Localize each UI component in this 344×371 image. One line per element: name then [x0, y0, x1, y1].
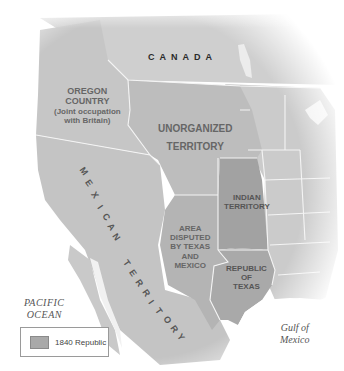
pacific-ocean-label: PACIFIC OCEAN [24, 297, 65, 321]
disputed-label-line: AREA [170, 224, 210, 233]
pacific-label-line: PACIFIC [24, 297, 65, 309]
legend-label: 1840 Republic [55, 338, 106, 347]
oregon-sub-line: (Joint occupation [54, 107, 121, 116]
unorganized-label-line: UNORGANIZED [158, 120, 232, 138]
pacific-label-line: OCEAN [24, 309, 65, 321]
unorganized-label-line: TERRITORY [158, 138, 232, 156]
map-legend: 1840 Republic [20, 327, 109, 357]
texas-label-line: REPUBLIC [226, 264, 267, 273]
oregon-country-label: OREGON COUNTRY (Joint occupation with Br… [54, 86, 121, 125]
unorganized-territory-label: UNORGANIZED TERRITORY [158, 120, 232, 156]
gulf-label-line: Gulf of [280, 322, 309, 334]
republic-of-texas-label: REPUBLIC OF TEXAS [226, 264, 267, 292]
oregon-label-line: OREGON [54, 86, 121, 96]
disputed-area-label: AREA DISPUTED BY TEXAS AND MEXICO [170, 224, 210, 270]
texas-label-line: OF [226, 273, 267, 282]
indian-label-line: INDIAN [224, 193, 270, 202]
disputed-label-line: BY TEXAS [170, 242, 210, 251]
disputed-label-line: DISPUTED [170, 233, 210, 242]
gulf-of-mexico-label: Gulf of Mexico [280, 322, 309, 346]
gulf-label-line: Mexico [280, 334, 309, 346]
indian-territory-label: INDIAN TERRITORY [224, 193, 270, 211]
canada-label: CANADA [148, 52, 217, 62]
disputed-label-line: AND [170, 252, 210, 261]
oregon-label-line: COUNTRY [54, 96, 121, 106]
indian-label-line: TERRITORY [224, 202, 270, 211]
oregon-sub-line: with Britain) [54, 116, 121, 125]
disputed-label-line: MEXICO [170, 261, 210, 270]
legend-swatch [30, 336, 49, 349]
texas-label-line: TEXAS [226, 282, 267, 291]
